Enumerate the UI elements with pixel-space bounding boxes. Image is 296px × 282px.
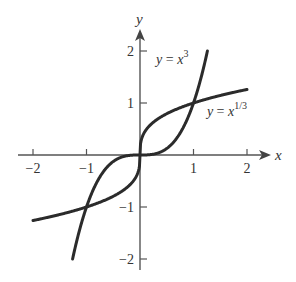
y-tick-label: 1 <box>127 96 134 111</box>
label-x-cubed: y = x3 <box>154 48 188 67</box>
y-axis-label: y <box>134 11 143 27</box>
x-tick-label: 1 <box>190 161 197 176</box>
label-cube-root: y = x1/3 <box>205 100 247 119</box>
y-tick-label: −1 <box>119 200 134 215</box>
axes: x y <box>18 11 282 270</box>
x-tick-label: −1 <box>79 161 94 176</box>
function-graph: x y −2−112−2−112 y = x3y = x1/3 <box>0 0 296 282</box>
x-tick-label: 2 <box>244 161 251 176</box>
x-axis-label: x <box>274 147 282 163</box>
y-tick-label: 2 <box>127 44 134 59</box>
y-tick-label: −2 <box>119 252 134 267</box>
x-tick-label: −2 <box>26 161 41 176</box>
